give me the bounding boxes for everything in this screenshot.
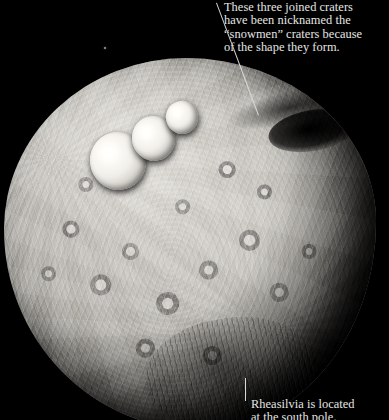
callout-snowmen-craters: These three joined craters have been nic…	[224, 1, 388, 55]
leader-line-rheasilvia	[245, 378, 246, 401]
asteroid-vesta-body	[4, 58, 376, 420]
limb-terminator-shading	[4, 58, 376, 420]
callout-rheasilvia: Rheasilvia is located at the south pole.	[251, 398, 389, 420]
background-star-icon	[104, 47, 106, 49]
asteroid-photo-panel: These three joined craters have been nic…	[0, 0, 389, 420]
